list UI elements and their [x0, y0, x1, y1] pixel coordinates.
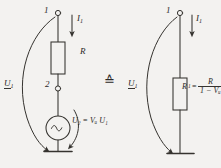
voltage-u1-left-label: U1: [4, 79, 14, 89]
formula-fraction: R 1 − Vᵤ: [198, 78, 221, 96]
node-2-label: 2: [45, 80, 50, 89]
terminal-node-1-left: [55, 10, 60, 15]
voltage-u1-left-subscript: 1: [11, 83, 14, 89]
current-i1-right-subscript: 1: [199, 18, 202, 24]
formula-numerator: R: [206, 78, 215, 86]
formula-lhs-symbol: R: [182, 83, 187, 91]
source-voltage-label: U₂ = Vᵤ U₁: [72, 117, 108, 125]
terminal-node-2: [55, 86, 60, 91]
formula-equals-sign: =: [192, 83, 197, 91]
formula-denominator: 1 − Vᵤ: [198, 86, 221, 95]
formula-lhs-subscript: 1: [188, 84, 191, 89]
equivalence-symbol: ≙: [104, 74, 115, 87]
node-1-right-label: 1: [166, 6, 171, 15]
current-i1-left-subscript: 1: [80, 18, 83, 24]
resistor-left: [51, 42, 65, 74]
node-1-left-label: 1: [44, 6, 49, 15]
current-i1-left-label: I1: [77, 14, 83, 24]
circuit-figure: 1 2 I1 R U1 U₂ = Vᵤ U₁ ≙ 1 I1 U1 R1 = R …: [0, 0, 221, 168]
equivalent-resistance-formula: R1 = R 1 − Vᵤ: [182, 78, 221, 96]
resistor-r-label: R: [80, 47, 86, 56]
terminal-node-1-right: [177, 10, 182, 15]
voltage-u1-right-label: U1: [128, 79, 138, 89]
voltage-u1-right-subscript: 1: [135, 83, 138, 89]
voltage-arc-right: [147, 17, 177, 152]
current-i1-right-label: I1: [196, 14, 202, 24]
ac-source-symbol: [46, 116, 70, 140]
